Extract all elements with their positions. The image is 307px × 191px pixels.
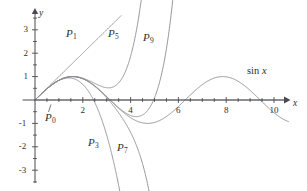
y-tick-label-1: 1 bbox=[23, 72, 28, 81]
curve-label-sin-x: sin x bbox=[247, 66, 267, 77]
y-tick-label-2: 2 bbox=[23, 49, 28, 58]
curve-p7 bbox=[35, 77, 154, 191]
y-tick-label-neg2: -2 bbox=[19, 142, 27, 151]
curve-label-p1: P1 bbox=[66, 28, 76, 39]
curve-label-p7: P7 bbox=[117, 142, 127, 153]
taylor-series-figure: 246810321-1-2-3yxP0P1P5P9P3P7sin x bbox=[0, 0, 307, 191]
x-tick-label-8: 8 bbox=[224, 106, 229, 115]
curve-label-p5: P5 bbox=[108, 28, 118, 39]
curve-label-p9: P9 bbox=[143, 32, 153, 43]
y-tick-label-3: 3 bbox=[23, 25, 28, 34]
curve-label-p3: P3 bbox=[88, 137, 98, 148]
y-axis-arrow-icon bbox=[32, 8, 38, 14]
y-tick-label-neg1: -1 bbox=[19, 119, 27, 128]
x-tick-label-10: 10 bbox=[269, 106, 278, 115]
x-tick-label-2: 2 bbox=[81, 106, 86, 115]
x-axis-label: x bbox=[293, 99, 297, 109]
axes-group bbox=[23, 8, 291, 183]
x-axis-arrow-icon bbox=[284, 96, 291, 103]
x-tick-label-6: 6 bbox=[176, 106, 181, 115]
y-axis-label: y bbox=[39, 9, 43, 19]
x-tick-label-4: 4 bbox=[128, 106, 133, 115]
plot-canvas bbox=[0, 0, 307, 191]
curve-p3 bbox=[35, 78, 125, 191]
y-tick-label-neg3: -3 bbox=[19, 166, 27, 175]
curve-label-p0: P0 bbox=[45, 112, 55, 123]
